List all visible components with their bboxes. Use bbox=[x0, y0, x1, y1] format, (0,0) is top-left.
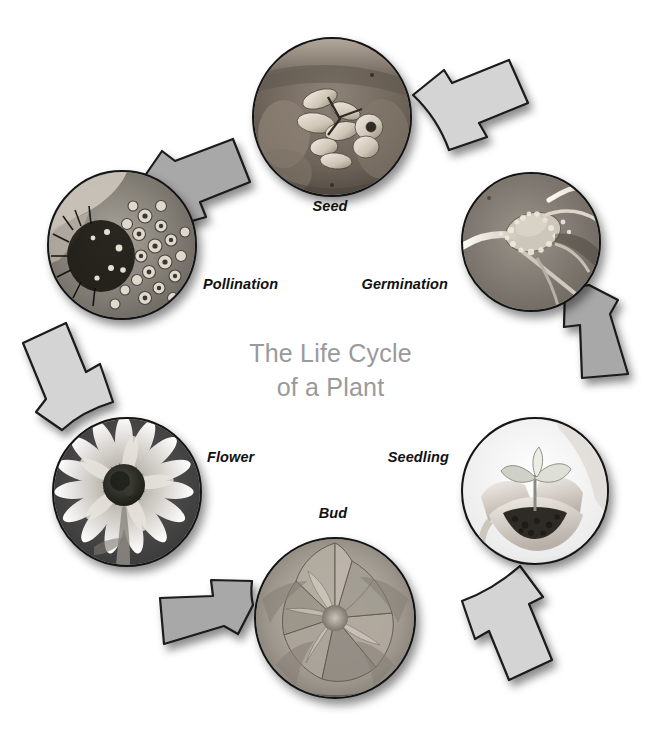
stage-photo-flower[interactable] bbox=[52, 417, 202, 567]
title-line-2: of a Plant bbox=[0, 370, 661, 404]
pollen-closeup-photo bbox=[49, 172, 195, 318]
arrow-seedling-to-bud bbox=[462, 566, 552, 680]
stage-label-pollination: Pollination bbox=[203, 276, 333, 292]
germinating-seed-photo bbox=[463, 174, 599, 310]
arrow-seed-to-germination bbox=[413, 60, 528, 150]
stage-label-seedling: Seedling bbox=[329, 449, 449, 465]
life-cycle-diagram: The Life Cycle of a Plant bbox=[0, 0, 661, 744]
stage-label-germination: Germination bbox=[318, 276, 448, 292]
flower-bud-photo bbox=[256, 539, 414, 697]
page-title: The Life Cycle of a Plant bbox=[0, 336, 661, 404]
stage-photo-seedling[interactable] bbox=[461, 417, 609, 565]
stage-label-flower: Flower bbox=[207, 449, 327, 465]
stage-photo-bud[interactable] bbox=[254, 537, 416, 699]
seedling-in-hands-photo bbox=[463, 419, 607, 563]
arrow-bud-to-flower bbox=[160, 580, 253, 644]
stage-photo-germination[interactable] bbox=[461, 172, 601, 312]
seeds-in-hand-photo bbox=[254, 39, 410, 195]
sunflower-photo bbox=[54, 419, 200, 565]
stage-photo-seed[interactable] bbox=[252, 37, 412, 197]
stage-label-bud: Bud bbox=[254, 505, 412, 521]
stage-photo-pollination[interactable] bbox=[47, 170, 197, 320]
title-line-1: The Life Cycle bbox=[0, 336, 661, 370]
stage-label-seed: Seed bbox=[252, 198, 408, 214]
